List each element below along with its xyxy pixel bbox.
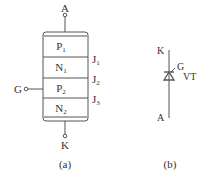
cathode-terminal	[63, 134, 67, 138]
layer-p1: P1	[56, 40, 66, 54]
symbol-label-anode: A	[157, 112, 165, 123]
label-cathode: K	[61, 139, 69, 151]
thyristor-symbol	[164, 50, 175, 118]
gate-terminal	[24, 87, 28, 91]
caption-b: (b)	[164, 158, 177, 171]
label-gate: G	[14, 83, 22, 95]
junction-j1-label: J1	[92, 53, 100, 67]
layer-n2: N2	[55, 102, 67, 116]
junction-j3-label: J3	[92, 93, 100, 107]
layer-n1: N1	[55, 61, 67, 75]
device-label: VT	[183, 71, 196, 82]
thyristor-diagram: A K G P1 N1 P2 N2 J1 J2 J3 (a) K A G VT …	[0, 0, 212, 185]
symbol-label-cathode: K	[157, 45, 165, 56]
thyristor-structure	[24, 13, 88, 138]
junction-j2-label: J2	[92, 73, 100, 87]
layer-p2: P2	[56, 82, 66, 96]
label-anode: A	[61, 2, 69, 14]
caption-a: (a)	[59, 158, 72, 171]
